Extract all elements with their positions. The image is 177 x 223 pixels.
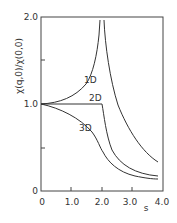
x-tick-label-4: 4.0: [155, 197, 170, 207]
x-axis-title: s: [144, 203, 149, 213]
x-tick-label-2: 2.0: [95, 197, 110, 207]
x-tick-label-0: 0: [39, 197, 45, 207]
label-2d: 2D: [89, 93, 102, 103]
label-3d: 3D: [79, 123, 92, 133]
x-tick-label-3: 3.0: [123, 197, 138, 207]
curve-2d: [41, 104, 158, 176]
y-tick-label-1: 1.0: [24, 99, 39, 109]
label-1d: 1D: [84, 75, 97, 85]
y-axis-title: χ(q,0)/χ(0,0): [14, 38, 24, 94]
curve-3d: [41, 104, 158, 179]
x-tick-label-1: 1.0: [65, 197, 80, 207]
y-tick-label-0: 0: [32, 186, 38, 196]
curve-1d-right: [104, 20, 158, 162]
curve-1d-left: [41, 20, 100, 104]
susceptibility-chart: 2.0 1.0 0 0 1.0 2.0 3.0 4.0 s χ(q,0)/χ(0…: [0, 0, 177, 223]
y-tick-label-2: 2.0: [24, 12, 39, 22]
